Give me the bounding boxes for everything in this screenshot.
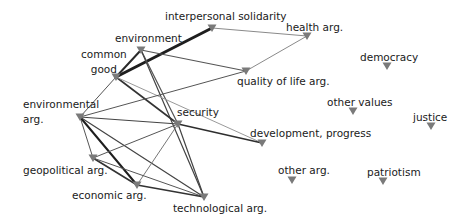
node-other-arg-triangle-icon[interactable]: [288, 176, 297, 184]
node-label-environment: environment: [115, 32, 182, 44]
node-label-justice: justice: [413, 111, 447, 123]
node-justice-triangle-icon[interactable]: [427, 122, 436, 130]
node-label-quality-of-life: quality of life arg.: [237, 75, 330, 87]
node-patriotism-triangle-icon[interactable]: [379, 177, 388, 185]
edge-health-quality_of_life: [246, 36, 307, 71]
node-label-interpersonal-solidarity: interpersonal solidarity: [165, 10, 287, 22]
edge-security-technological: [178, 124, 204, 197]
node-other-values-triangle-icon[interactable]: [349, 107, 358, 115]
node-label-democracy: democracy: [360, 51, 418, 63]
edge-environment-security: [141, 50, 178, 124]
node-label-security: security: [177, 106, 219, 118]
node-label-other-values: other values: [327, 96, 392, 108]
node-label-common-good: common good: [81, 47, 127, 77]
node-label-patriotism: patriotism: [367, 166, 421, 178]
edge-environment-quality_of_life: [141, 50, 246, 71]
node-label-technological: technological arg.: [173, 202, 267, 214]
node-development-triangle-icon[interactable]: [258, 139, 267, 147]
node-label-health: health arg.: [286, 21, 343, 33]
node-label-development: development, progress: [250, 127, 371, 139]
node-label-economic: economic arg.: [72, 189, 147, 201]
node-democracy-triangle-icon[interactable]: [383, 62, 392, 70]
node-label-other-arg: other arg.: [278, 164, 330, 176]
node-label-geopolitical: geopolitical arg.: [23, 164, 108, 176]
edge-environmental-quality_of_life: [80, 71, 246, 117]
node-geopolitical-triangle-icon[interactable]: [89, 154, 98, 162]
node-label-environmental: environmental arg.: [23, 97, 99, 127]
edge-environmental-technological: [80, 117, 204, 197]
node-quality-of-life-triangle-icon[interactable]: [242, 67, 251, 75]
